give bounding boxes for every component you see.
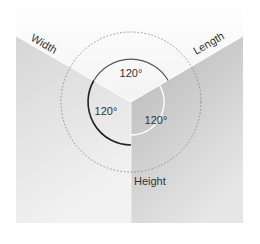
corner-angle-diagram: 120° 120° 120° Width Length Height bbox=[0, 0, 260, 244]
height-label: Height bbox=[134, 175, 166, 187]
diagram-canvas: 120° 120° 120° Width Length Height bbox=[0, 0, 260, 244]
left-angle-label: 120° bbox=[95, 105, 118, 117]
top-angle-label: 120° bbox=[120, 67, 143, 79]
right-angle-label: 120° bbox=[145, 114, 168, 126]
